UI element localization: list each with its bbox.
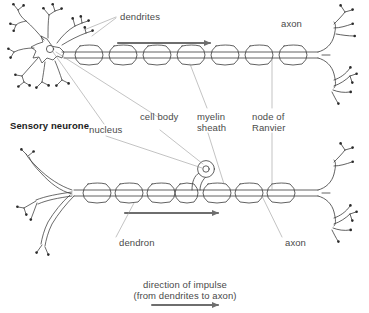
- label-axon-top: axon: [281, 18, 302, 29]
- label-dendron: dendron: [119, 237, 155, 248]
- motor-neurone-group: [7, 3, 358, 105]
- axon-terminal-bottom: [318, 142, 358, 243]
- label-dendrites: dendrites: [120, 11, 160, 22]
- label-nucleus: nucleus: [89, 124, 122, 135]
- label-direction-line2: (from dendrites to axon): [113, 290, 257, 301]
- label-sensory-neurone: Sensory neurone: [10, 120, 89, 131]
- nucleus-bottom: [203, 166, 209, 172]
- label-axon-bottom: axon: [285, 237, 306, 248]
- myelin-sheath-bottom: [83, 183, 295, 203]
- label-direction-line1: direction of impulse: [117, 279, 253, 290]
- neurone-diagram: dendrites axon cell body nucleus myelin …: [0, 0, 369, 313]
- sensory-neurone-group: [16, 142, 358, 256]
- nucleus-top: [46, 45, 53, 52]
- label-cell-body: cell body: [140, 111, 178, 122]
- label-myelin-sheath-line1: myelin: [197, 111, 225, 122]
- axon-terminal-top: [318, 4, 358, 105]
- label-node-of-ranvier-line1: node of: [252, 111, 284, 122]
- dendron-branches: [16, 148, 74, 256]
- label-myelin-sheath-line2: sheath: [197, 122, 226, 133]
- label-node-of-ranvier-line2: Ranvier: [252, 122, 285, 133]
- diagram-canvas: [0, 0, 369, 313]
